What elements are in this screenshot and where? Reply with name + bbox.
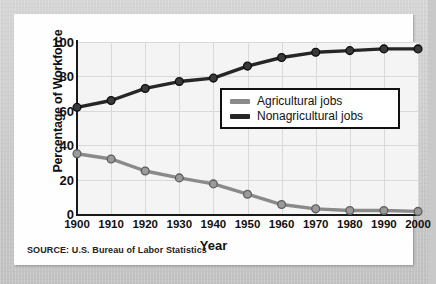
data-point-marker bbox=[175, 78, 183, 86]
source-note: SOURCE: U.S. Bureau of Labor Statistics bbox=[27, 245, 207, 255]
legend-swatch-nonagricultural bbox=[230, 114, 250, 119]
data-point-marker bbox=[312, 48, 320, 56]
data-point-marker bbox=[141, 85, 149, 93]
data-point-marker bbox=[414, 208, 422, 216]
data-point-marker bbox=[210, 180, 218, 188]
series-line-agricultural bbox=[77, 154, 418, 212]
gridline-vertical bbox=[418, 42, 419, 214]
legend-item-agricultural: Agricultural jobs bbox=[230, 95, 398, 107]
data-point-marker bbox=[73, 103, 81, 111]
data-point-marker bbox=[107, 155, 115, 163]
data-point-marker bbox=[210, 74, 218, 82]
legend-item-nonagricultural: Nonagricultural jobs bbox=[230, 110, 398, 122]
data-point-marker bbox=[346, 47, 354, 55]
data-point-marker bbox=[278, 201, 286, 209]
chart-card: 020406080100 190019101920193019401950196… bbox=[14, 14, 413, 265]
data-point-marker bbox=[380, 45, 388, 53]
data-point-marker bbox=[244, 62, 252, 70]
data-point-marker bbox=[141, 167, 149, 175]
data-point-marker bbox=[414, 45, 422, 53]
line-chart: 020406080100 190019101920193019401950196… bbox=[14, 14, 413, 265]
data-point-marker bbox=[107, 97, 115, 105]
data-point-marker bbox=[175, 174, 183, 182]
legend-swatch-agricultural bbox=[230, 99, 250, 104]
legend-label-nonagricultural: Nonagricultural jobs bbox=[257, 110, 363, 122]
legend-label-agricultural: Agricultural jobs bbox=[257, 95, 342, 107]
data-point-marker bbox=[346, 207, 354, 215]
data-point-marker bbox=[278, 54, 286, 62]
series-layer bbox=[14, 14, 413, 265]
chart-legend: Agricultural jobs Nonagricultural jobs bbox=[220, 88, 400, 129]
data-point-marker bbox=[312, 205, 320, 213]
data-point-marker bbox=[244, 190, 252, 198]
data-point-marker bbox=[380, 207, 388, 215]
data-point-marker bbox=[73, 150, 81, 158]
